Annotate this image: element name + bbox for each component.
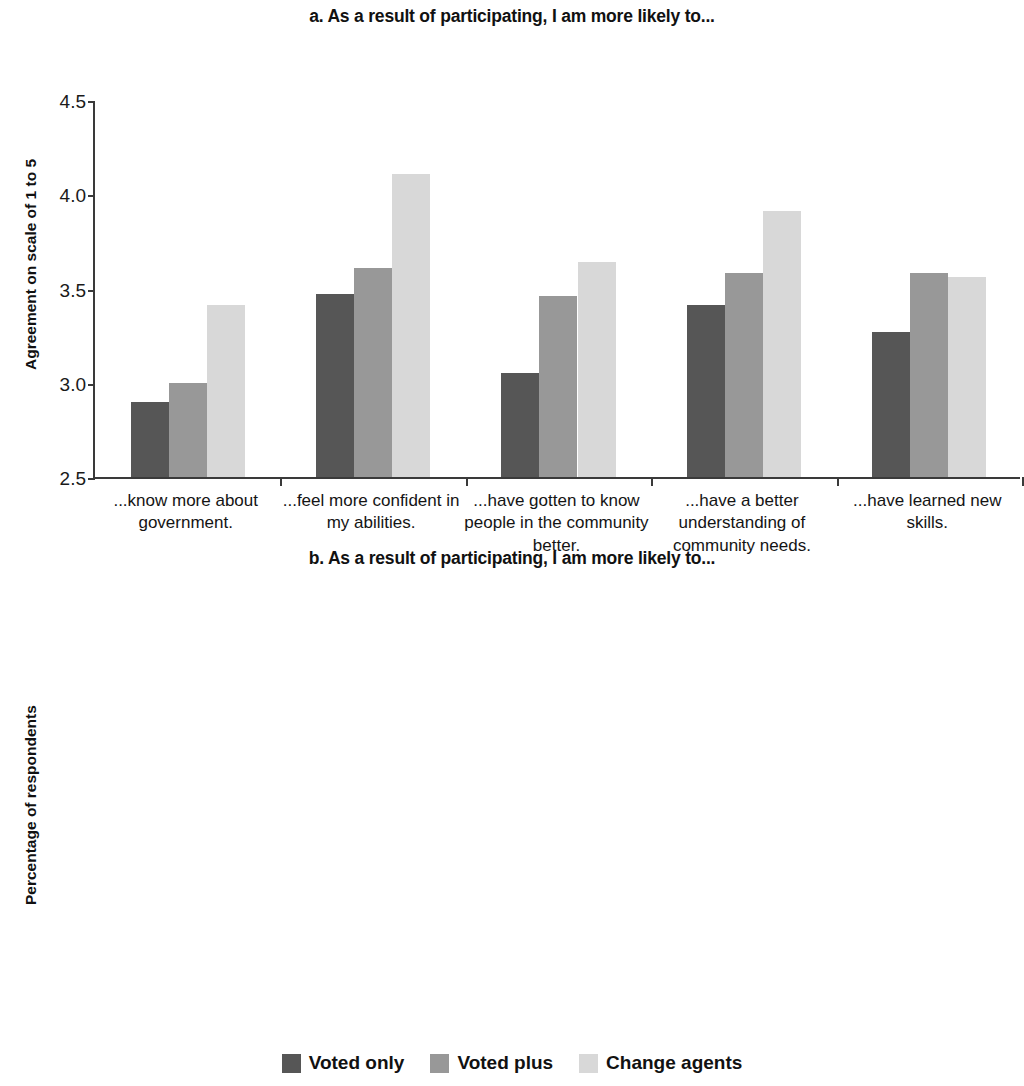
bar-group	[466, 102, 651, 477]
bar	[392, 174, 430, 477]
y-axis-tick-label: 2.5	[60, 468, 86, 490]
y-axis-tick-label: 3.5	[60, 280, 86, 302]
x-axis-category-separator	[651, 477, 653, 486]
figure-root: a. As a result of participating, I am mo…	[0, 0, 1024, 1086]
y-axis-tick-mark	[88, 101, 95, 103]
bar	[948, 277, 986, 477]
x-axis-category-label: ...know more about government.	[93, 490, 278, 535]
legend-item: Voted only	[282, 1052, 405, 1074]
legend-swatch-icon	[282, 1054, 301, 1073]
bar	[910, 273, 948, 477]
bar-group	[280, 102, 465, 477]
bar	[501, 373, 539, 477]
y-axis-tick-label: 4.5	[60, 91, 86, 113]
panel-b: 00.10.20.30.40.50.60.70.80.9 ...contact …	[0, 575, 1024, 1035]
legend-item: Voted plus	[430, 1052, 553, 1074]
x-axis-category-label: ...feel more confident in my abilities.	[278, 490, 463, 535]
legend-label: Change agents	[606, 1052, 742, 1074]
bar	[687, 305, 725, 477]
panel-a: 2.53.03.54.04.5 ...know more about gover…	[0, 40, 1024, 540]
legend-label: Voted only	[309, 1052, 405, 1074]
bar-group	[837, 102, 1022, 477]
x-axis-category-separator	[466, 477, 468, 486]
bar	[578, 262, 616, 477]
y-axis-tick-label: 3.0	[60, 374, 86, 396]
bar	[725, 273, 763, 477]
legend-swatch-icon	[430, 1054, 449, 1073]
legend-item: Change agents	[579, 1052, 742, 1074]
bar	[872, 332, 910, 477]
bar	[169, 383, 207, 477]
x-axis-category-label: ...have learned new skills.	[835, 490, 1020, 535]
bar	[539, 296, 577, 477]
y-axis-tick-mark	[88, 478, 95, 480]
panel-a-title: a. As a result of participating, I am mo…	[0, 6, 1024, 27]
bar	[131, 402, 169, 477]
bar-group	[651, 102, 836, 477]
x-axis-category-separator	[837, 477, 839, 486]
panel-b-title: b. As a result of participating, I am mo…	[0, 548, 1024, 569]
legend-swatch-icon	[579, 1054, 598, 1073]
y-axis-tick-mark	[88, 195, 95, 197]
x-axis-category-separator	[280, 477, 282, 486]
chart-legend: Voted onlyVoted plusChange agents	[0, 1052, 1024, 1074]
bar	[316, 294, 354, 477]
y-axis-tick-mark	[88, 384, 95, 386]
bar	[763, 211, 801, 477]
bar	[207, 305, 245, 477]
bar-group	[95, 102, 280, 477]
panel-a-plot-area: 2.53.03.54.04.5	[93, 102, 1020, 479]
y-axis-tick-mark	[88, 290, 95, 292]
legend-label: Voted plus	[457, 1052, 553, 1074]
y-axis-tick-label: 4.0	[60, 185, 86, 207]
bar	[354, 268, 392, 477]
